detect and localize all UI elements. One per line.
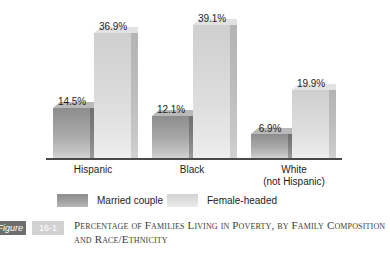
category-label-white: White (not Hispanic)	[250, 164, 338, 188]
legend-label: Female-headed	[207, 195, 277, 206]
value-label-hispanic-married: 14.5%	[46, 96, 98, 107]
category-sublabel-text: (not Hispanic)	[250, 176, 338, 188]
figure-number-badge: 16-1	[32, 221, 64, 235]
bar-white-married	[251, 134, 288, 158]
category-label-text: Black	[180, 164, 204, 175]
category-label-black: Black	[151, 164, 233, 176]
figure-word-badge: Figure	[0, 221, 26, 235]
value-label-black-married: 12.1%	[145, 104, 197, 115]
legend-swatch-icon	[167, 194, 198, 207]
category-label-text: Hispanic	[74, 164, 112, 175]
bar-black-married	[152, 116, 189, 158]
bar-front-face	[193, 25, 230, 158]
category-label-text: White	[281, 164, 307, 175]
bar-hispanic-married	[53, 108, 90, 158]
legend-item-married-couple: Married couple	[57, 192, 163, 208]
bar-front-face	[292, 90, 329, 158]
bar-front-face	[251, 134, 288, 158]
x-axis-baseline	[46, 158, 342, 160]
value-label-hispanic-female: 36.9%	[86, 21, 140, 32]
bar-black-female	[193, 25, 230, 158]
caption-divider	[28, 221, 30, 235]
value-label-white-female: 19.9%	[284, 78, 338, 89]
bar-front-face	[53, 108, 90, 158]
value-label-white-married: 6.9%	[246, 123, 294, 134]
chart-legend: Married couple Female-headed	[0, 192, 390, 210]
value-label-black-female: 39.1%	[185, 13, 239, 24]
bar-hispanic-female	[94, 33, 131, 158]
category-label-hispanic: Hispanic	[52, 164, 134, 176]
bar-side-face	[131, 33, 138, 158]
bar-front-face	[152, 116, 189, 158]
legend-swatch-icon	[57, 194, 88, 207]
bar-white-female	[292, 90, 329, 158]
bar-side-face	[230, 25, 237, 158]
chart-plot-area: 14.5% 36.9% 12.1% 39.1%	[0, 0, 390, 162]
legend-label: Married couple	[97, 195, 163, 206]
legend-item-female-headed: Female-headed	[167, 192, 277, 208]
figure-caption-bar: Figure 16-1 Percentage of Families Livin…	[0, 221, 390, 256]
bar-side-face	[329, 90, 336, 158]
figure-container: 14.5% 36.9% 12.1% 39.1%	[0, 0, 390, 256]
bar-front-face	[94, 33, 131, 158]
figure-caption-text: Percentage of Families Living in Poverty…	[74, 219, 386, 246]
